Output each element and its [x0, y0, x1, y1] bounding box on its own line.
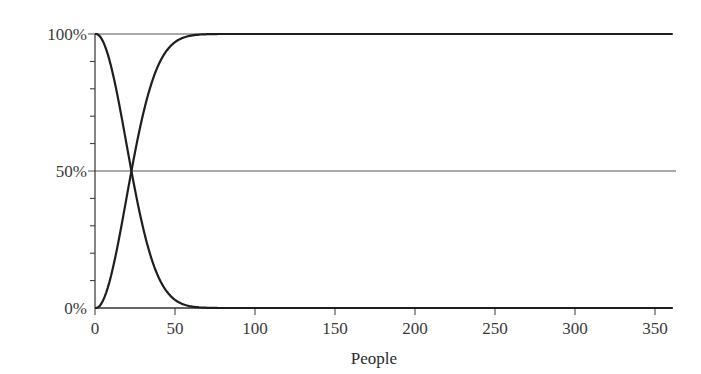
reference-lines	[88, 34, 676, 308]
y-label-50: 50%	[56, 162, 87, 181]
x-label: 50	[167, 319, 184, 338]
x-label: 150	[322, 319, 348, 338]
x-label: 100	[242, 319, 268, 338]
x-label: 200	[402, 319, 428, 338]
x-label: 250	[482, 319, 508, 338]
x-axis-title: People	[351, 349, 397, 368]
y-label-0: 0%	[64, 299, 87, 318]
x-label: 350	[642, 319, 668, 338]
x-label: 0	[91, 319, 100, 338]
x-tick-labels: 0 50 100 150 200 250 300 350	[91, 319, 668, 338]
birthday-probability-chart: 100% 50% 0% 0 50 100 150 200 250 300 350…	[0, 0, 701, 374]
x-label: 300	[562, 319, 588, 338]
y-label-100: 100%	[47, 25, 87, 44]
